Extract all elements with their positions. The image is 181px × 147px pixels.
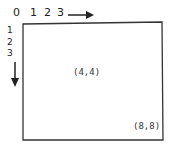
point-label-center: (4,4) [73, 67, 100, 77]
point-label-bottom-right: (8,8) [133, 121, 160, 131]
y-axis-label-3: 3 [7, 48, 13, 58]
x-axis-label-0: 0 [13, 8, 20, 18]
x-axis-label-2: 2 [44, 8, 51, 18]
x-axis-label-1: 1 [30, 8, 37, 18]
y-axis-label-2: 2 [7, 37, 13, 47]
y-axis-label-1: 1 [7, 25, 13, 35]
x-axis-label-3: 3 [57, 8, 64, 18]
y-axis-arrowhead-icon [11, 78, 19, 87]
x-axis-arrowhead-icon [86, 11, 94, 19]
